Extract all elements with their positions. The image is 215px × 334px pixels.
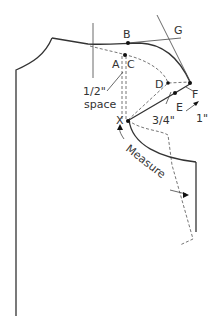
label-b: B [123, 28, 131, 41]
label-space: space [84, 98, 117, 111]
shoulder-line [52, 38, 190, 82]
label-c: C [127, 58, 135, 71]
label-e: E [176, 101, 183, 114]
label-g: G [174, 24, 183, 37]
label-d: D [155, 78, 163, 91]
point-x-dot [126, 119, 130, 123]
neckline-curve [16, 38, 52, 316]
label-x: X [116, 114, 124, 127]
point-b-dot [126, 41, 130, 45]
pattern-diagram: B G A C D F E X 1/2" space 3/4" 1" Measu… [0, 0, 215, 334]
label-measure: Measure [123, 142, 168, 181]
b-extension-line [128, 38, 181, 43]
point-d-dot [166, 81, 170, 85]
label-half-inch: 1/2" [83, 85, 106, 98]
point-c-dot [123, 53, 127, 57]
label-a: A [112, 58, 120, 71]
point-e-dot [173, 91, 177, 95]
point-f-dot [188, 81, 192, 85]
label-one-inch: 1" [196, 112, 208, 125]
label-three-quarter: 3/4" [152, 114, 175, 127]
label-f: F [192, 88, 198, 101]
half-inch-leader [107, 72, 123, 91]
measure-arrowhead-bottom [183, 192, 189, 198]
